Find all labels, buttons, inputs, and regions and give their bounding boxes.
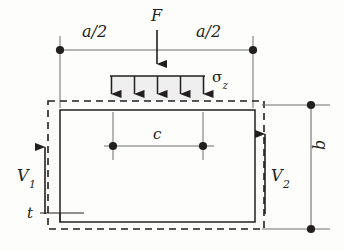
label-stress-sigma-z: σz	[212, 70, 228, 88]
b-dimension-line	[307, 101, 315, 233]
label-shear-V1: V1	[17, 168, 35, 188]
label-force-F: F	[151, 8, 162, 24]
diagram-canvas	[0, 0, 344, 251]
sigma-subscript: z	[223, 80, 228, 91]
label-thickness-t: t	[27, 206, 33, 221]
label-dimension-b: b	[312, 140, 328, 150]
sigma-glyph: σ	[212, 68, 222, 86]
thickness-leader-t	[40, 213, 84, 222]
v2-glyph: V	[271, 166, 283, 185]
v2-subscript: 2	[283, 178, 290, 191]
label-dimension-a-left: a/2	[82, 24, 107, 40]
dashed-punching-perimeter	[48, 101, 264, 229]
v1-subscript: 1	[29, 178, 36, 191]
foundation-pressure-diagram: a/2 a/2 F σz c V1 t V2 b	[0, 0, 344, 251]
label-dimension-a-right: a/2	[196, 24, 221, 40]
label-dimension-c: c	[153, 127, 161, 142]
label-shear-V2: V2	[271, 168, 289, 188]
v1-glyph: V	[17, 166, 29, 185]
